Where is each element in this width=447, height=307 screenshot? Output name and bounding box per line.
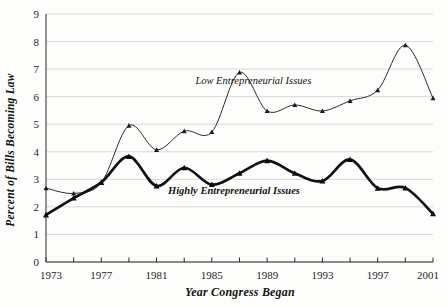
series-label-2: Highly Entrepreneurial Issues: [167, 185, 300, 196]
y-axis-tick-label: 0: [34, 256, 40, 268]
chart-container: 0123456789 19731977198119851989199319972…: [0, 0, 447, 307]
x-axis-tick-label: 1997: [367, 269, 390, 281]
x-axis-tick-label: 1977: [90, 269, 113, 281]
y-axis-tick-label: 7: [34, 63, 40, 75]
y-axis-tick-label: 5: [34, 118, 40, 130]
x-axis-tick-label: 1985: [201, 269, 224, 281]
y-axis-tick-label: 3: [34, 173, 40, 185]
y-axis-tick-label: 6: [34, 91, 40, 103]
y-axis-tick-label: 1: [34, 228, 40, 240]
y-axis-tick-label: 9: [34, 8, 40, 20]
chart-background: [0, 0, 447, 307]
x-axis-tick-label: 1981: [146, 269, 168, 281]
x-axis-tick-label: 1973: [40, 269, 63, 281]
y-axis-tick-label: 2: [34, 201, 40, 213]
y-axis-title: Percent of Bills Becoming Law: [4, 73, 17, 227]
y-axis-tick-label: 8: [34, 36, 40, 48]
x-axis-tick-label: 2001: [417, 269, 439, 281]
x-axis-tick-label: 1989: [256, 269, 279, 281]
y-axis-tick-label: 4: [34, 146, 40, 158]
series-label-1: Low Entrepreneurial Issues: [194, 75, 311, 86]
x-axis-tick-label: 1993: [311, 269, 334, 281]
x-axis-title: Year Congress Began: [185, 285, 295, 299]
line-chart: 0123456789 19731977198119851989199319972…: [0, 0, 447, 307]
